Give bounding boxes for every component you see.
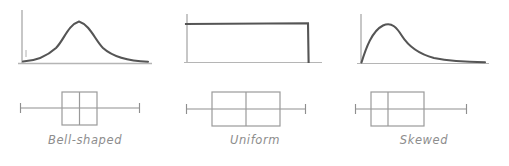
bell-shaped-density-curve: [23, 22, 148, 62]
panel-label-skewed: Skewed: [339, 133, 509, 147]
uniform-curve-area: [170, 6, 340, 68]
skewed-curve-area: [339, 6, 509, 68]
uniform-boxplot-area: [170, 84, 340, 132]
skewed-density-curve: [362, 24, 486, 62]
bell-shaped-curve-area: [0, 6, 170, 68]
panel-label-uniform: Uniform: [170, 133, 340, 147]
distribution-shapes-figure: Bell-shaped Uniform: [0, 0, 509, 166]
bell-shaped-boxplot-area: [0, 84, 170, 132]
panel-skewed: Skewed: [339, 0, 509, 166]
skewed-boxplot-area: [339, 84, 509, 132]
panel-bell-shaped: Bell-shaped: [0, 0, 170, 166]
uniform-density-curve: [186, 23, 309, 62]
panel-uniform: Uniform: [170, 0, 340, 166]
panel-label-bell-shaped: Bell-shaped: [0, 133, 170, 147]
